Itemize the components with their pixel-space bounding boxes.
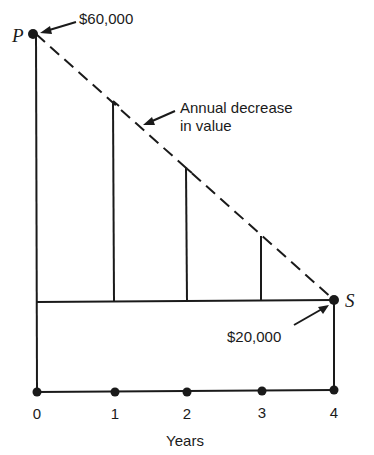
point-p-label: P bbox=[11, 25, 24, 46]
annotation-line1: Annual decrease bbox=[180, 99, 293, 116]
depreciation-dashed-line bbox=[36, 34, 334, 300]
year-3-dot bbox=[258, 387, 267, 396]
annotation-arrowhead-icon bbox=[143, 117, 155, 125]
p-value-label: $60,000 bbox=[79, 10, 133, 27]
tick-0: 0 bbox=[33, 405, 41, 422]
s-value-arrow bbox=[294, 309, 322, 325]
annotation-arrow bbox=[150, 111, 175, 122]
tick-1: 1 bbox=[111, 405, 119, 422]
left-vertical-line bbox=[36, 34, 37, 392]
tick-4: 4 bbox=[330, 404, 338, 421]
depreciation-diagram: P $60,000 Annual decrease in value S $20… bbox=[0, 0, 374, 455]
tick-3: 3 bbox=[258, 404, 266, 421]
year-2-dot bbox=[183, 388, 192, 397]
p-arrowhead-icon bbox=[40, 26, 52, 34]
point-s-dot bbox=[329, 295, 339, 305]
year-1-value-line bbox=[113, 101, 114, 302]
year-4-dot bbox=[330, 386, 339, 395]
tick-2: 2 bbox=[183, 405, 191, 422]
salvage-line bbox=[37, 300, 334, 302]
year-2-value-line bbox=[186, 168, 187, 302]
x-axis-label: Years bbox=[166, 432, 204, 449]
point-s-label: S bbox=[345, 290, 355, 311]
year-1-dot bbox=[111, 388, 120, 397]
annotation-line2: in value bbox=[180, 117, 232, 134]
s-value-label: $20,000 bbox=[227, 328, 281, 345]
year-0-dot bbox=[33, 388, 42, 397]
point-p-dot bbox=[28, 29, 38, 39]
